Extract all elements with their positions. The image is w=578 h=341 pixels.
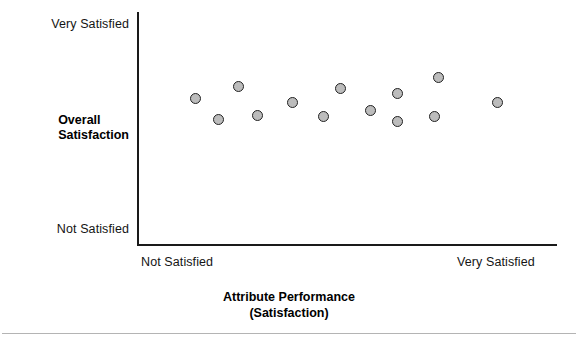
y-axis-title: Overall Satisfaction (58, 113, 129, 143)
data-point (213, 114, 224, 125)
data-point (233, 81, 244, 92)
data-point (335, 83, 346, 94)
data-point (252, 110, 263, 121)
y-axis-line (137, 12, 139, 246)
data-point (365, 105, 376, 116)
y-axis-bottom-tick-label: Not Satisfied (57, 222, 129, 236)
data-point (492, 97, 503, 108)
data-point (318, 111, 329, 122)
x-axis-right-tick-label: Very Satisfied (457, 255, 535, 269)
x-axis-title-line2: (Satisfaction) (0, 305, 578, 321)
y-axis-top-tick-label: Very Satisfied (51, 17, 129, 31)
x-axis-title: Attribute Performance (Satisfaction) (0, 289, 578, 321)
x-axis-left-tick-label: Not Satisfied (141, 255, 213, 269)
y-axis-title-line2: Satisfaction (58, 128, 129, 142)
scatter-plot-figure: Very Satisfied Not Satisfied Overall Sat… (0, 0, 578, 341)
data-point (429, 111, 440, 122)
y-axis-title-line1: Overall (58, 113, 100, 127)
data-point (433, 72, 444, 83)
data-point (392, 116, 403, 127)
data-point (392, 88, 403, 99)
x-axis-title-line1: Attribute Performance (223, 290, 355, 304)
data-point (287, 97, 298, 108)
x-axis-line (137, 244, 557, 246)
page-bottom-rule (2, 333, 576, 334)
data-point (190, 93, 201, 104)
